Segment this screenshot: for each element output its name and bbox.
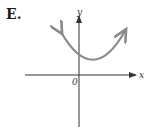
x-axis-label: x	[139, 70, 144, 80]
parabola-graph: x y 0	[0, 0, 148, 135]
parabola-curve	[61, 31, 125, 60]
origin-label: 0	[72, 77, 78, 87]
y-axis-label: y	[76, 7, 83, 17]
